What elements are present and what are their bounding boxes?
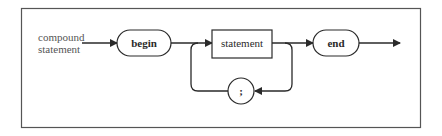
nonterminal-statement: statement: [212, 30, 272, 58]
terminal-end-label: end: [327, 37, 344, 49]
terminal-separator-label: ;: [239, 85, 243, 97]
start-label-line2: statement: [38, 43, 80, 55]
nonterminal-statement-label: statement: [221, 37, 263, 49]
terminal-end: end: [313, 30, 359, 56]
terminal-begin: begin: [117, 30, 171, 56]
diagram-frame: [22, 9, 421, 128]
syntax-diagram: compound statement begin statement ; end: [0, 0, 442, 136]
start-label-line1: compound: [38, 31, 85, 43]
terminal-separator: ;: [228, 78, 254, 104]
terminal-begin-label: begin: [131, 37, 157, 49]
